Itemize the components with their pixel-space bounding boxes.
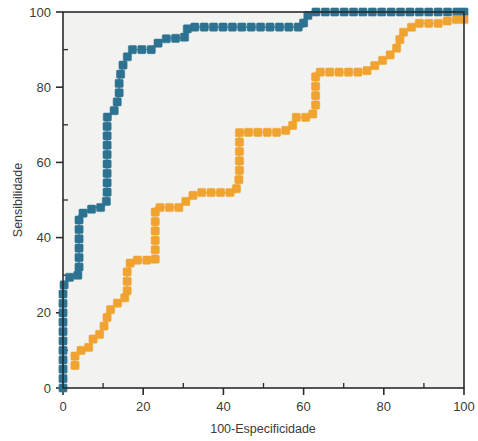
curve-orange-marker (232, 185, 240, 193)
curve-blue-marker (75, 235, 83, 243)
curve-orange-marker (393, 44, 401, 52)
curve-orange-marker (289, 121, 297, 129)
curve-orange-marker (452, 15, 460, 23)
curve-orange-marker (292, 113, 300, 121)
curve-orange-marker (434, 19, 442, 27)
y-tick-label: 20 (37, 305, 51, 320)
y-tick-label: 80 (37, 80, 51, 95)
curve-blue-marker (65, 273, 73, 281)
curve-orange-marker (151, 227, 159, 235)
curve-blue-marker (266, 23, 274, 31)
curve-orange-marker (415, 19, 423, 27)
x-tick-label: 100 (453, 399, 475, 414)
curve-orange-marker (407, 23, 415, 31)
curve-blue-marker (191, 23, 199, 31)
curve-blue-marker (87, 205, 95, 213)
x-tick-label: 20 (136, 399, 150, 414)
curve-orange-marker (235, 129, 243, 137)
curve-blue-marker (74, 271, 82, 279)
curve-orange-marker (156, 203, 164, 211)
y-tick-label: 100 (29, 5, 51, 20)
curve-blue-marker (103, 141, 111, 149)
curve-blue-marker (75, 244, 83, 252)
curve-orange-marker (363, 67, 371, 75)
curve-blue-marker (210, 23, 218, 31)
curve-orange-marker (189, 191, 197, 199)
curve-blue-marker (113, 98, 121, 106)
curve-orange-marker (244, 128, 252, 136)
curve-orange-marker (326, 68, 334, 76)
curve-blue-marker (103, 122, 111, 130)
curve-blue-marker (257, 23, 265, 31)
curve-blue-marker (75, 263, 83, 271)
curve-orange-marker (103, 313, 111, 321)
curve-orange-marker (207, 188, 215, 196)
curve-orange-marker (198, 188, 206, 196)
curve-orange-marker (123, 287, 131, 295)
x-tick-label: 60 (296, 399, 310, 414)
curve-blue-marker (219, 23, 227, 31)
curve-orange-marker (399, 28, 407, 36)
curve-orange-marker (312, 101, 320, 109)
curve-blue-marker (60, 281, 68, 289)
curve-orange-marker (312, 92, 320, 100)
curve-blue-marker (110, 107, 118, 115)
curve-blue-marker (103, 151, 111, 159)
x-tick-label: 0 (59, 399, 66, 414)
curve-blue-marker (117, 70, 125, 78)
curve-orange-marker (151, 246, 159, 254)
curve-orange-marker (235, 138, 243, 146)
x-tick-label: 80 (377, 399, 391, 414)
curve-orange-marker (96, 330, 104, 338)
curve-orange-marker (396, 35, 404, 43)
curve-orange-marker (165, 203, 173, 211)
y-tick-label: 0 (44, 381, 51, 396)
curve-blue-marker (247, 23, 255, 31)
curve-blue-marker (238, 23, 246, 31)
curve-orange-marker (344, 68, 352, 76)
curve-blue-marker (180, 33, 188, 41)
curve-orange-marker (85, 343, 93, 351)
curve-blue-marker (162, 35, 170, 43)
curve-blue-marker (103, 132, 111, 140)
curve-orange-marker (151, 255, 159, 263)
roc-chart-figure: 020406080100020406080100 100-Especificid… (0, 0, 478, 441)
curve-orange-marker (273, 128, 281, 136)
curve-orange-marker (335, 68, 343, 76)
curve-blue-marker (285, 23, 293, 31)
curve-blue-marker (138, 46, 146, 54)
curve-orange-marker (151, 236, 159, 244)
curve-blue-marker (128, 46, 136, 54)
curve-orange-marker (133, 256, 141, 264)
curve-orange-marker (235, 166, 243, 174)
roc-chart-svg: 020406080100020406080100 100-Especificid… (0, 0, 478, 441)
curve-blue-marker (102, 197, 110, 205)
curve-orange-marker (71, 361, 79, 369)
curve-orange-marker (113, 299, 121, 307)
curve-orange-marker (216, 188, 224, 196)
curve-orange-marker (143, 256, 151, 264)
curve-orange-marker (100, 322, 108, 330)
curve-blue-marker (75, 225, 83, 233)
curve-orange-marker (151, 217, 159, 225)
curve-orange-marker (443, 17, 451, 25)
curve-orange-marker (371, 61, 379, 69)
curve-orange-marker (378, 56, 386, 64)
curve-blue-marker (103, 188, 111, 196)
curve-orange-marker (254, 128, 262, 136)
curve-orange-marker (123, 277, 131, 285)
curve-orange-marker (354, 68, 362, 76)
curve-orange-marker (263, 128, 271, 136)
y-axis-title: Sensibilidade (11, 163, 25, 237)
curve-orange-marker (312, 82, 320, 90)
curve-blue-marker (115, 89, 123, 97)
curve-orange-marker (77, 346, 85, 354)
x-axis-title: 100-Especificidade (210, 422, 316, 436)
curve-orange-marker (235, 157, 243, 165)
curve-blue-marker (103, 169, 111, 177)
curve-orange-marker (123, 268, 131, 276)
curve-blue-marker (79, 209, 87, 217)
curve-blue-marker (154, 39, 162, 47)
curve-blue-marker (228, 23, 236, 31)
curve-blue-marker (103, 179, 111, 187)
